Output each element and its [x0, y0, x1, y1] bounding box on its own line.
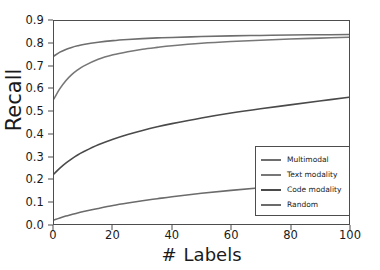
x-axis-label-word: Labels	[184, 244, 242, 265]
legend-line-swatch	[261, 204, 281, 206]
y-axis-tick-label: 0.7	[25, 59, 44, 73]
legend-item[interactable]: Text modality	[261, 167, 345, 182]
x-axis-tick-label: 40	[164, 228, 179, 242]
legend-line-swatch	[261, 189, 281, 191]
legend-item[interactable]: Multimodal	[261, 152, 345, 167]
series-line-text-modality	[54, 37, 349, 99]
legend-item[interactable]: Random	[261, 197, 345, 212]
y-axis-tick-label: 0.4	[25, 127, 44, 141]
legend-item-label: Text modality	[287, 171, 337, 179]
legend-item[interactable]: Code modality	[261, 182, 345, 197]
x-axis-label-symbol: #	[161, 244, 176, 265]
y-axis-tick-label: 0.2	[25, 172, 44, 186]
y-axis-tick-label: 0.3	[25, 150, 44, 164]
legend-line-swatch	[261, 159, 281, 161]
y-axis-label: Recall	[2, 55, 26, 145]
x-axis-tick-label: 60	[224, 228, 239, 242]
x-axis-tick-label: 100	[339, 228, 361, 242]
x-axis-tick-labels: 020406080100	[53, 228, 350, 244]
x-axis-tick-label: 0	[49, 228, 56, 242]
recall-vs-labels-chart: 0.00.10.20.30.40.50.60.70.80.9 Recall 02…	[0, 0, 380, 270]
legend-item-label: Multimodal	[287, 156, 329, 164]
legend-item-label: Code modality	[287, 186, 341, 194]
x-axis-tick-label: 80	[283, 228, 298, 242]
x-axis-tick-label: 20	[105, 228, 120, 242]
y-axis-tick-label: 0.5	[25, 104, 44, 118]
series-line-multimodal	[54, 35, 349, 56]
legend: MultimodalText modalityCode modalityRand…	[255, 146, 350, 216]
y-axis-tick-label: 0.1	[25, 195, 44, 209]
legend-item-label: Random	[287, 201, 318, 209]
x-axis-label: #Labels	[53, 244, 350, 265]
y-axis-tick-label: 0.6	[25, 81, 44, 95]
legend-line-swatch	[261, 174, 281, 176]
y-axis-tick-label: 0.9	[25, 13, 44, 27]
y-axis-tick-label: 0.8	[25, 36, 44, 50]
y-axis-tick-label: 0.0	[25, 218, 44, 232]
